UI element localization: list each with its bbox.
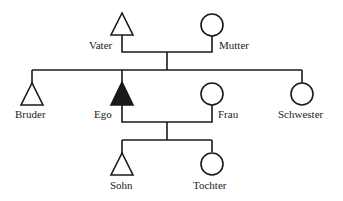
vater-triangle-icon [111,13,133,35]
label-mutter: Mutter [219,39,249,51]
ego-marriage-line [122,105,212,122]
kinship-lines [0,0,343,201]
ego-triangle-filled-icon [111,82,133,105]
label-sohn: Sohn [110,179,133,191]
tochter-circle-icon [201,153,223,175]
schwester-circle-icon [291,83,313,105]
mutter-circle-icon [201,14,223,36]
label-vater: Vater [89,39,112,51]
sohn-triangle-icon [111,153,133,175]
bruder-triangle-icon [21,83,43,105]
label-bruder: Bruder [15,108,46,120]
parents-marriage-line [122,35,212,52]
kinship-diagram: Vater Mutter Bruder Ego Frau Schwester S… [0,0,343,201]
label-ego: Ego [94,108,112,120]
label-tochter: Tochter [193,179,226,191]
label-schwester: Schwester [278,108,323,120]
label-frau: Frau [218,108,238,120]
frau-circle-icon [201,83,223,105]
